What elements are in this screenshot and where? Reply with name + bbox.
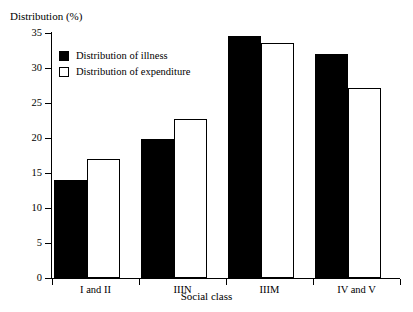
y-axis-tick [45, 278, 52, 279]
x-axis-title: Social class [0, 290, 413, 303]
y-axis-tick [45, 103, 52, 104]
y-axis-tick [45, 173, 52, 174]
y-axis-tick [45, 33, 52, 34]
legend-item-expenditure: Distribution of expenditure [59, 64, 190, 80]
y-axis-tick-label: 5 [8, 238, 42, 248]
legend-label-illness: Distribution of illness [76, 48, 168, 64]
bar-expenditure [174, 119, 207, 278]
y-axis-tick-label: 25 [8, 98, 42, 108]
y-axis-tick [45, 138, 52, 139]
y-axis-tick [45, 208, 52, 209]
y-axis-tick-label: 0 [8, 273, 42, 283]
y-axis-tick-label: 10 [8, 203, 42, 213]
x-axis-tick [400, 279, 401, 285]
hollow-square-icon [59, 67, 69, 77]
bar-expenditure [261, 43, 294, 278]
y-axis-line [51, 32, 52, 279]
y-axis-title: Distribution (%) [10, 10, 82, 23]
chart-legend: Distribution of illness Distribution of … [59, 48, 190, 80]
bar-illness [141, 139, 174, 278]
y-axis-tick [45, 68, 52, 69]
y-axis-tick [45, 243, 52, 244]
bar-expenditure [348, 88, 381, 278]
bar-chart: Distribution (%) 05101520253035 I and II… [0, 0, 413, 312]
bar-illness [54, 180, 87, 278]
bar-illness [228, 36, 261, 278]
legend-label-expenditure: Distribution of expenditure [76, 64, 190, 80]
y-axis-tick-label: 35 [8, 28, 42, 38]
bar-expenditure [87, 159, 120, 278]
y-axis-tick-label: 20 [8, 133, 42, 143]
bar-illness [315, 54, 348, 278]
y-axis-tick-label: 30 [8, 63, 42, 73]
y-axis-tick-label: 15 [8, 168, 42, 178]
legend-item-illness: Distribution of illness [59, 48, 190, 64]
filled-square-icon [59, 51, 69, 61]
